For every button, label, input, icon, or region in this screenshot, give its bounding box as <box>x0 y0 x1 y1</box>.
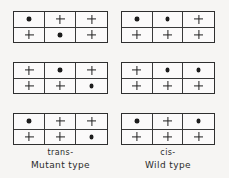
mutation-dot-icon <box>166 68 170 72</box>
grid-cell <box>183 79 214 94</box>
grid-cell <box>76 79 107 94</box>
gene-grid <box>13 62 108 94</box>
wild-type-plus-icon <box>163 30 172 39</box>
mutation-dot-icon <box>90 135 94 139</box>
mutation-dot-icon <box>90 84 94 88</box>
grid-cell <box>14 130 45 145</box>
wild-type-plus-icon <box>25 30 34 39</box>
grid-cell <box>122 63 153 78</box>
mutation-dot-icon <box>27 119 31 123</box>
grid-cell <box>45 114 76 129</box>
grid-cell <box>122 114 153 129</box>
grid-cell <box>45 28 76 43</box>
wild-type-plus-icon <box>87 15 96 24</box>
grid-cell <box>122 28 153 43</box>
grid-row-top <box>14 114 107 130</box>
grid-row-bottom <box>122 79 214 94</box>
grid-cell <box>153 79 184 94</box>
wild-type-plus-icon <box>56 15 65 24</box>
diagram-column-right: cis- Wild type <box>121 0 223 178</box>
gene-grid <box>121 11 215 43</box>
grid-row-top <box>14 63 107 79</box>
grid-row-top <box>14 12 107 28</box>
grid-cell <box>183 130 214 145</box>
grid-cell <box>153 130 184 145</box>
mutation-dot-icon <box>197 119 201 123</box>
grid-cell <box>76 130 107 145</box>
wild-type-plus-icon <box>25 132 34 141</box>
wild-type-plus-icon <box>163 132 172 141</box>
grid-row-top <box>122 63 214 79</box>
grid-row-bottom <box>122 130 214 145</box>
grid-cell <box>183 114 214 129</box>
caption-configuration: cis- <box>121 148 215 157</box>
grid-cell <box>14 63 45 78</box>
wild-type-plus-icon <box>194 30 203 39</box>
grid-row-top <box>122 12 214 28</box>
grid-cell <box>14 12 45 27</box>
grid-cell <box>45 63 76 78</box>
wild-type-plus-icon <box>163 117 172 126</box>
grid-cell <box>153 28 184 43</box>
mutation-dot-icon <box>135 17 139 21</box>
wild-type-plus-icon <box>56 117 65 126</box>
caption-phenotype: Mutant type <box>13 160 108 170</box>
diagram-column-left: trans- Mutant type <box>13 0 115 178</box>
wild-type-plus-icon <box>194 15 203 24</box>
wild-type-plus-icon <box>132 30 141 39</box>
wild-type-plus-icon <box>163 81 172 90</box>
wild-type-plus-icon <box>132 132 141 141</box>
grid-cell <box>76 12 107 27</box>
grid-cell <box>76 28 107 43</box>
grid-cell <box>45 79 76 94</box>
caption-phenotype: Wild type <box>121 160 215 170</box>
grid-row-top <box>122 114 214 130</box>
grid-cell <box>45 130 76 145</box>
gene-grid <box>13 11 108 43</box>
gene-grid <box>13 113 108 145</box>
grid-cell <box>153 12 184 27</box>
grid-cell <box>122 130 153 145</box>
mutation-dot-icon <box>135 119 139 123</box>
wild-type-plus-icon <box>25 66 34 75</box>
grid-cell <box>122 12 153 27</box>
grid-row-bottom <box>14 28 107 43</box>
grid-cell <box>153 63 184 78</box>
gene-grid <box>121 113 215 145</box>
grid-cell <box>122 79 153 94</box>
wild-type-plus-icon <box>56 132 65 141</box>
gene-grid <box>121 62 215 94</box>
wild-type-plus-icon <box>194 81 203 90</box>
wild-type-plus-icon <box>87 66 96 75</box>
wild-type-plus-icon <box>194 132 203 141</box>
wild-type-plus-icon <box>87 30 96 39</box>
wild-type-plus-icon <box>25 81 34 90</box>
grid-cell <box>14 28 45 43</box>
wild-type-plus-icon <box>132 66 141 75</box>
mutation-dot-icon <box>27 17 31 21</box>
complementation-diagram: trans- Mutant type <box>0 0 229 178</box>
grid-cell <box>183 12 214 27</box>
grid-cell <box>14 79 45 94</box>
mutation-dot-icon <box>197 68 201 72</box>
grid-row-bottom <box>14 79 107 94</box>
mutation-dot-icon <box>58 33 62 37</box>
grid-cell <box>153 114 184 129</box>
grid-cell <box>76 114 107 129</box>
caption-configuration: trans- <box>13 148 108 157</box>
wild-type-plus-icon <box>87 117 96 126</box>
grid-row-bottom <box>122 28 214 43</box>
grid-row-bottom <box>14 130 107 145</box>
wild-type-plus-icon <box>132 81 141 90</box>
grid-cell <box>183 28 214 43</box>
grid-cell <box>76 63 107 78</box>
mutation-dot-icon <box>166 17 170 21</box>
wild-type-plus-icon <box>56 81 65 90</box>
grid-cell <box>14 114 45 129</box>
mutation-dot-icon <box>58 68 62 72</box>
grid-cell <box>45 12 76 27</box>
grid-cell <box>183 63 214 78</box>
